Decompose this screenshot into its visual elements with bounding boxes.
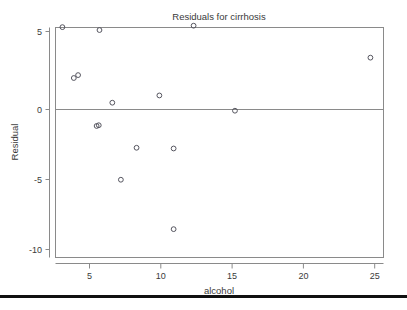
data-point xyxy=(157,93,162,98)
data-point xyxy=(171,227,176,232)
x-tick-label-15: 15 xyxy=(227,271,237,281)
x-axis-label: alcohol xyxy=(204,285,234,296)
figure-container: 5 0 -5 -10 5 10 15 20 25 Residuals for c… xyxy=(0,0,407,310)
x-tick-label-20: 20 xyxy=(298,271,308,281)
y-tick-label-0: 0 xyxy=(37,105,42,115)
y-tick-label-5: 5 xyxy=(37,27,42,37)
data-point xyxy=(118,177,123,182)
data-point xyxy=(368,55,373,60)
x-tick-label-10: 10 xyxy=(156,271,166,281)
y-tick-marks xyxy=(46,32,50,250)
y-axis-label: Residual xyxy=(9,124,20,161)
data-point xyxy=(97,28,102,33)
x-tick-marks xyxy=(90,264,375,269)
data-point xyxy=(110,100,115,105)
chart-title: Residuals for cirrhosis xyxy=(172,11,266,22)
x-tick-label-5: 5 xyxy=(87,271,92,281)
y-tick-label-neg10: -10 xyxy=(29,245,42,255)
x-tick-label-25: 25 xyxy=(370,271,380,281)
data-point xyxy=(76,73,81,78)
data-point xyxy=(171,146,176,151)
data-points-layer xyxy=(60,23,373,231)
residual-plot-canvas: 5 0 -5 -10 5 10 15 20 25 Residuals for c… xyxy=(0,0,407,310)
y-tick-label-neg5: -5 xyxy=(34,175,42,185)
data-point xyxy=(134,145,139,150)
plot-frame xyxy=(56,28,384,258)
